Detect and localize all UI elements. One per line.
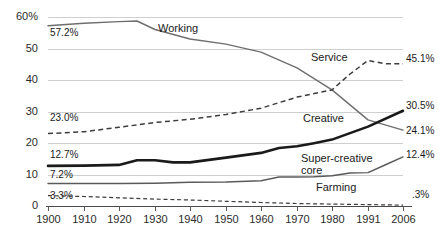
series-line-farming [48,196,403,206]
value-label-service-end: 45.1% [406,54,434,65]
value-label-creative-start: 12.7% [50,150,78,161]
y-tick-label-30: 30 [2,106,38,118]
value-label-farming-end: .3% [412,190,429,201]
value-label-creative-end: 30.5% [406,101,434,112]
super-creative-core-label-line2: core [301,164,322,176]
value-label-working-end: 24.1% [406,126,434,137]
series-label-super-creative-core: Super-creativecore [301,152,373,177]
y-tick-label-60: 60% [2,11,38,23]
super-creative-core-label-line1: Super-creative [301,152,373,164]
x-tick-label-2006: 2006 [378,214,429,226]
y-tick-label-0: 0 [2,200,38,212]
value-label-service-start: 23.0% [50,113,78,124]
y-tick-label-40: 40 [2,74,38,86]
series-label-service: Service [311,52,348,64]
line-chart: 60% 50 40 30 20 10 0 1900 1910 1920 1930… [0,0,438,233]
y-tick-label-50: 50 [2,43,38,55]
value-label-farming-start: 3.3% [50,191,73,202]
value-label-working-start: 57.2% [50,28,78,39]
series-line-service [48,61,403,134]
value-label-supercore-end: 12.4% [406,150,434,161]
y-tick-label-10: 10 [2,169,38,181]
series-label-farming: Farming [316,182,356,194]
series-label-working: Working [158,23,198,35]
series-label-creative: Creative [303,113,344,125]
series-line-working [48,21,403,130]
value-label-supercore-start: 7.2% [50,170,73,181]
y-tick-label-20: 20 [2,137,38,149]
